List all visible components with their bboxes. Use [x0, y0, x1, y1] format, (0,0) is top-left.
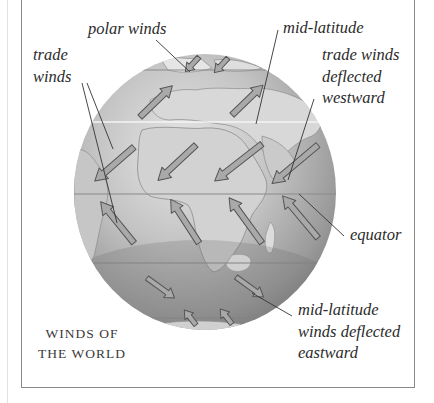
- label-trade-winds-deflected: trade winds deflected westward: [322, 44, 399, 109]
- label-trade-winds-line-2: winds: [33, 66, 72, 88]
- label-midlat-deflected-line-3: eastward: [298, 342, 400, 364]
- label-mid-latitude: mid-latitude: [283, 17, 364, 39]
- label-trade-deflected-line-2: deflected: [322, 66, 399, 88]
- diagram-title: WINDS OF THE WORLD: [34, 324, 130, 364]
- label-trade-winds-line-1: trade: [33, 44, 72, 66]
- label-polar-winds: polar winds: [88, 18, 166, 40]
- label-equator: equator: [350, 224, 401, 246]
- label-midlat-deflected: mid-latitude winds deflected eastward: [298, 299, 400, 364]
- label-midlat-deflected-line-2: winds deflected: [298, 321, 400, 343]
- label-trade-winds: trade winds: [33, 44, 72, 87]
- label-trade-deflected-line-1: trade winds: [322, 44, 399, 66]
- label-midlat-deflected-line-1: mid-latitude: [298, 299, 400, 321]
- diagram-title-line-2: THE WORLD: [34, 344, 130, 364]
- label-trade-deflected-line-3: westward: [322, 87, 399, 109]
- diagram-title-line-1: WINDS OF: [34, 324, 130, 344]
